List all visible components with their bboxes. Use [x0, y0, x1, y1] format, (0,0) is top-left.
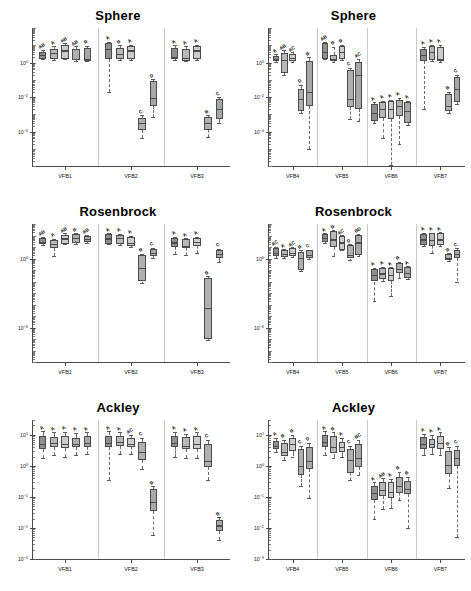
significance-label: A — [105, 425, 110, 431]
whisker-cap-upper — [195, 432, 199, 433]
boxplot-box — [347, 449, 354, 473]
y-minor-tick — [33, 240, 35, 241]
y-minor-tick — [33, 118, 35, 119]
boxplot-box — [127, 46, 135, 59]
y-minor-tick — [33, 106, 35, 107]
median-line — [437, 239, 444, 240]
median-line — [84, 443, 92, 444]
whisker-cap-lower — [430, 454, 434, 455]
y-minor-tick — [33, 469, 35, 470]
y-minor-tick — [33, 275, 35, 276]
significance-label: B — [72, 227, 77, 233]
whisker-cap-lower — [291, 257, 295, 258]
y-minor-tick — [269, 154, 271, 155]
x-axis-line — [268, 362, 465, 363]
category-separator — [98, 420, 99, 559]
median-line — [204, 123, 212, 124]
y-tick-mark — [266, 466, 271, 467]
median-line — [182, 246, 190, 247]
y-minor-tick — [269, 35, 271, 36]
whisker-cap-upper — [373, 482, 377, 483]
y-minor-tick — [33, 309, 35, 310]
y-minor-tick — [269, 81, 271, 82]
y-minor-tick — [33, 336, 35, 337]
median-line — [216, 525, 224, 526]
y-minor-tick — [33, 109, 35, 110]
median-line — [429, 444, 436, 445]
y-minor-tick — [269, 531, 271, 532]
significance-label: C — [305, 243, 310, 249]
whisker-cap-lower — [307, 498, 311, 499]
y-minor-tick — [269, 332, 271, 333]
x-tick-mark — [293, 166, 294, 170]
whisker-cap-upper — [307, 57, 311, 58]
whisker-cap-lower — [184, 458, 188, 459]
y-minor-tick — [33, 161, 35, 162]
whisker-cap-upper — [389, 479, 393, 480]
median-line — [388, 275, 395, 276]
y-minor-tick — [269, 65, 271, 66]
y-minor-tick — [33, 37, 35, 38]
y-minor-tick — [269, 535, 271, 536]
whisker-cap-upper — [274, 54, 278, 55]
median-line — [454, 458, 461, 459]
median-line — [204, 308, 212, 309]
y-minor-tick — [269, 126, 271, 127]
whisker-cap-lower — [422, 246, 426, 247]
y-minor-tick — [33, 224, 36, 225]
significance-label: A — [193, 230, 198, 236]
y-minor-tick — [33, 478, 35, 479]
whisker-cap-upper — [184, 46, 188, 47]
whisker-cap-lower — [422, 455, 426, 456]
y-minor-tick — [33, 102, 35, 103]
y-minor-tick — [33, 117, 35, 118]
median-line — [105, 443, 113, 444]
whisker-cap-upper — [291, 52, 295, 53]
y-tick-label: 10−2 — [2, 525, 28, 532]
significance-label: A — [50, 39, 55, 45]
x-tick-mark — [342, 559, 343, 563]
whisker-cap-upper — [398, 98, 402, 99]
significance-label: B — [305, 51, 310, 57]
y-minor-tick — [269, 475, 271, 476]
boxplot-box — [127, 237, 135, 246]
whisker-cap-lower — [195, 458, 199, 459]
whisker-cap-upper — [85, 432, 89, 433]
whisker-cap-lower — [140, 283, 144, 284]
significance-label: A — [379, 260, 384, 266]
y-minor-tick — [33, 351, 36, 352]
median-line — [39, 55, 47, 56]
whisker-cap-upper — [439, 45, 443, 46]
significance-label: B — [83, 39, 88, 45]
x-tick-mark — [197, 559, 198, 563]
y-tick-mark — [266, 63, 271, 64]
y-minor-tick — [269, 278, 271, 279]
y-minor-tick — [269, 33, 271, 34]
benchmark-boxplot-figure: Sphere10010−210−4VFB1ABAABABBVFB2ABACDVF… — [0, 0, 471, 591]
median-line — [84, 59, 92, 60]
y-minor-tick — [269, 331, 271, 332]
boxplot-box — [105, 436, 113, 448]
panel-title: Sphere — [0, 8, 236, 23]
y-minor-tick — [33, 533, 35, 534]
y-minor-tick — [269, 253, 271, 254]
whisker-cap-upper — [455, 75, 459, 76]
y-minor-tick — [269, 270, 272, 271]
whisker-lower — [449, 474, 450, 488]
y-minor-tick — [33, 255, 35, 256]
y-minor-tick — [33, 347, 35, 348]
whisker-cap-lower — [52, 60, 56, 61]
y-minor-tick — [33, 425, 35, 426]
whisker-cap-upper — [41, 431, 45, 432]
plot-area: 10110010−110−210−3VFB4ABBCDVFB5ABACBCVFB… — [268, 420, 465, 559]
median-line — [339, 242, 346, 243]
whisker-cap-upper — [381, 478, 385, 479]
significance-label: B — [204, 269, 209, 275]
y-minor-tick — [33, 28, 36, 29]
y-tick-mark — [30, 497, 35, 498]
boxplot-box — [39, 436, 47, 449]
y-minor-tick — [269, 149, 272, 150]
whisker-cap-lower — [151, 258, 155, 259]
median-line — [61, 238, 69, 239]
y-minor-tick — [269, 336, 271, 337]
